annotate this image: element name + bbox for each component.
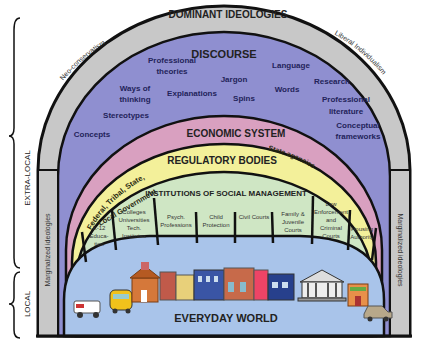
svg-text:and: and xyxy=(326,217,336,223)
local-label: LOCAL xyxy=(23,290,32,317)
discourse-term: Concepts xyxy=(74,130,111,139)
extra-local-bracket xyxy=(9,18,20,268)
svg-text:Housing: Housing xyxy=(351,226,373,232)
discourse-term: Ways of xyxy=(120,84,151,93)
discourse-term: Research xyxy=(314,77,350,86)
svg-text:Juvenile: Juvenile xyxy=(282,219,305,225)
discourse-term: Professional xyxy=(148,56,196,65)
dominant-ideologies-title: DOMINANT IDEOLOGIES xyxy=(169,9,288,20)
svg-text:Law: Law xyxy=(325,201,337,207)
marginalized-left-label: Marginalized ideologies xyxy=(44,213,52,287)
svg-text:Tech.: Tech. xyxy=(127,225,142,231)
institution-family-courts: Family & Juvenile Courts xyxy=(281,211,304,233)
discourse-title: DISCOURSE xyxy=(191,48,256,60)
discourse-term: Conceptual xyxy=(336,121,380,130)
social-organization-diagram: EXTRA-LOCAL LOCAL DOMINANT IDEOLOGIES Ne… xyxy=(0,0,448,346)
discourse-term: Spins xyxy=(233,94,255,103)
svg-text:tion: tion xyxy=(94,241,104,247)
economic-system-title: ECONOMIC SYSTEM xyxy=(187,128,286,139)
extra-local-label: EXTRA-LOCAL xyxy=(23,150,32,206)
svg-text:Courts: Courts xyxy=(322,233,340,239)
discourse-term: Language xyxy=(272,61,310,70)
svg-text:Family &: Family & xyxy=(281,211,304,217)
institutions-title: INSTITUTIONS OF SOCIAL MANAGEMENT xyxy=(145,189,307,198)
svg-text:Criminal: Criminal xyxy=(320,225,342,231)
svg-text:Authority: Authority xyxy=(350,234,374,240)
discourse-term: frameworks xyxy=(336,132,381,141)
svg-text:Colleges: Colleges xyxy=(122,209,145,215)
everyday-world-title: EVERYDAY WORLD xyxy=(174,312,278,324)
svg-text:Enforcement: Enforcement xyxy=(314,209,348,215)
discourse-term: literature xyxy=(329,107,364,116)
discourse-term: Explanations xyxy=(167,89,217,98)
svg-text:Child: Child xyxy=(209,214,223,220)
svg-text:Universities: Universities xyxy=(118,217,149,223)
discourse-term: Jargon xyxy=(221,75,248,84)
svg-text:Institutes: Institutes xyxy=(122,233,146,239)
svg-text:Civil Courts: Civil Courts xyxy=(239,214,270,220)
svg-text:Educa-: Educa- xyxy=(89,233,108,239)
institution-civil-courts: Civil Courts xyxy=(239,214,270,220)
svg-text:Psych.: Psych. xyxy=(167,214,185,220)
svg-text:K-12: K-12 xyxy=(93,225,106,231)
discourse-term: thinking xyxy=(119,95,150,104)
school-bus-icon xyxy=(110,290,132,314)
discourse-term: Words xyxy=(275,85,300,94)
discourse-term: Professional xyxy=(322,95,370,104)
marginalized-right-label: Marginalized ideologies xyxy=(396,213,404,287)
regulatory-bodies-title: REGULATORY BODIES xyxy=(167,155,277,166)
discourse-term: theories xyxy=(156,67,188,76)
svg-text:Protection: Protection xyxy=(202,222,229,228)
shop-icon xyxy=(348,284,368,306)
svg-text:Professions: Professions xyxy=(160,222,191,228)
local-bracket xyxy=(9,272,20,338)
svg-text:Courts: Courts xyxy=(284,227,302,233)
discourse-term: Stereotypes xyxy=(103,111,149,120)
